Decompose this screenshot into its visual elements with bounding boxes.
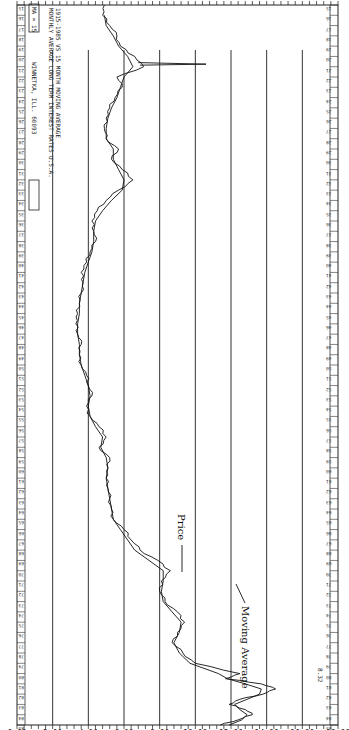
year-tick-label: 48	[326, 345, 332, 350]
year-tick-label: 44	[18, 304, 24, 309]
plot-frame	[17, 5, 338, 725]
year-tick-label: 29	[18, 150, 24, 155]
year-tick-label: 15	[326, 6, 332, 11]
year-tick-label: 79	[18, 664, 24, 669]
year-tick-label: 31	[326, 171, 332, 176]
year-tick-label: 56	[18, 428, 24, 433]
year-tick-label: 38	[326, 243, 332, 248]
year-tick-label: 55	[18, 417, 24, 422]
year-tick-label: 80	[326, 675, 332, 680]
year-tick-label: 49	[326, 356, 332, 361]
year-tick-label: 30	[18, 160, 24, 165]
year-tick-label: 79	[326, 664, 332, 669]
year-tick-label: 46	[18, 325, 24, 330]
rotated-chart-stage: MA = 15 WINNETKA, ILL. 60093 MONTHLY AVE…	[0, 0, 349, 730]
year-tick-label: 75	[18, 623, 24, 628]
year-tick-label: 45	[18, 315, 24, 320]
year-tick-label: 57	[326, 438, 332, 443]
year-tick-label: 64	[326, 510, 332, 515]
year-tick-label: 68	[18, 551, 24, 556]
year-tick-label: 69	[18, 561, 24, 566]
value-axis-left: 18.0016.0014.0012.0010.008.006.004.002.0…	[7, 0, 349, 5]
year-tick-label: 20	[326, 57, 332, 62]
year-tick-label: 25	[326, 109, 332, 114]
year-tick-label: 19	[326, 47, 332, 52]
year-tick-label: 33	[326, 191, 332, 196]
year-tick-label: 17	[18, 27, 24, 32]
year-tick-label: 15	[18, 6, 24, 11]
year-tick-label: 60	[18, 469, 24, 474]
year-tick-label: 50	[326, 366, 332, 371]
year-tick-label: 27	[326, 129, 332, 134]
year-tick-label: 73	[18, 603, 24, 608]
year-tick-label: 22	[18, 78, 24, 83]
year-tick-label: 29	[326, 150, 332, 155]
year-tick-label: 23	[326, 88, 332, 93]
year-tick-label: 44	[326, 304, 332, 309]
year-tick-label: 31	[18, 171, 24, 176]
year-tick-label: 22	[326, 78, 332, 83]
year-tick-label: 19	[18, 47, 24, 52]
year-tick-label: 68	[326, 551, 332, 556]
year-tick-label: 26	[326, 119, 332, 124]
year-tick-label: 41	[18, 273, 24, 278]
year-tick-label: 50	[18, 366, 24, 371]
year-tick-label: 48	[18, 345, 24, 350]
chart-header: MA = 15 WINNETKA, ILL. 60093 MONTHLY AVE…	[29, 4, 62, 210]
year-tick-label: 24	[18, 99, 24, 104]
year-tick-label: 39	[326, 253, 332, 258]
year-tick-label: 26	[18, 119, 24, 124]
year-tick-label: 21	[18, 68, 24, 73]
last-value-label: 8.32	[317, 668, 324, 683]
price-spike	[138, 63, 206, 66]
year-tick-label: 51	[18, 376, 24, 381]
year-tick-strip-bottom: 1516171819202122232425262728293031323334…	[17, 5, 25, 730]
year-tick-label: 76	[326, 633, 332, 638]
year-tick-label: 28	[18, 140, 24, 145]
year-tick-label: 83	[326, 705, 332, 710]
year-tick-label: 56	[326, 428, 332, 433]
year-tick-label: 78	[326, 654, 332, 659]
year-tick-label: 40	[326, 263, 332, 268]
year-tick-label: 47	[18, 335, 24, 340]
year-tick-label: 20	[18, 57, 24, 62]
year-tick-label: 47	[326, 335, 332, 340]
year-tick-label: 77	[326, 644, 332, 649]
year-tick-label: 49	[18, 356, 24, 361]
price-annotation-label: Price	[176, 514, 187, 540]
year-tick-label: 28	[326, 140, 332, 145]
year-tick-label: 76	[18, 633, 24, 638]
year-tick-label: 18	[326, 37, 332, 42]
year-tick-label: 36	[18, 222, 24, 227]
year-tick-label: 57	[18, 438, 24, 443]
year-tick-label: 65	[326, 520, 332, 525]
year-tick-label: 41	[326, 273, 332, 278]
year-tick-label: 70	[18, 572, 24, 577]
year-tick-label: 58	[18, 448, 24, 453]
stamp-box	[29, 180, 39, 210]
value-axis-right: 18.0016.0014.0012.0010.008.006.004.002.0…	[7, 725, 349, 730]
year-tick-label: 42	[326, 284, 332, 289]
year-tick-label: 63	[18, 500, 24, 505]
interest-rate-chart: MA = 15 WINNETKA, ILL. 60093 MONTHLY AVE…	[0, 0, 349, 730]
year-tick-label: 21	[326, 68, 332, 73]
year-tick-label: 71	[18, 582, 24, 587]
year-tick-label: 35	[326, 212, 332, 217]
year-tick-label: 27	[18, 129, 24, 134]
year-tick-label: 72	[326, 592, 332, 597]
year-tick-label: 59	[18, 459, 24, 464]
year-tick-label: 80	[18, 675, 24, 680]
year-tick-label: 55	[326, 417, 332, 422]
year-tick-label: 58	[326, 448, 332, 453]
year-tick-label: 53	[326, 397, 332, 402]
moving-average-line	[78, 15, 262, 725]
year-tick-label: 30	[326, 160, 332, 165]
year-tick-label: 74	[18, 613, 24, 618]
year-tick-label: 37	[326, 232, 332, 237]
year-tick-label: 71	[326, 582, 332, 587]
year-tick-label: 16	[18, 16, 24, 21]
year-tick-label: 42	[18, 284, 24, 289]
value-gridlines	[53, 50, 303, 725]
year-tick-label: 17	[326, 27, 332, 32]
year-tick-label: 23	[18, 88, 24, 93]
